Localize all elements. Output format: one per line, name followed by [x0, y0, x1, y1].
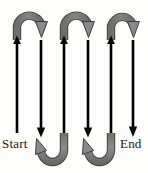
line-1: [13, 36, 21, 134]
bottom-turn-1: [36, 133, 65, 162]
top-turn-3: [111, 17, 139, 40]
line-2: [37, 40, 45, 138]
line-6: [129, 40, 137, 137]
top-turn-1: [17, 16, 47, 40]
bottom-turn-2: [83, 133, 112, 162]
boustrophedon-diagram: Start End: [0, 0, 148, 173]
line-4: [84, 40, 92, 138]
line-3: [60, 36, 68, 134]
top-turn-2: [64, 16, 94, 40]
line-5: [107, 36, 115, 134]
end-label: End: [120, 137, 142, 150]
start-label: Start: [2, 137, 28, 150]
